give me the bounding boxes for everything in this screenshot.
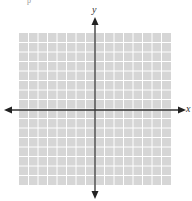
coordinate-plane: [0, 0, 192, 201]
corner-mark: p: [27, 0, 31, 5]
y-axis-bottom-arrow-icon: [92, 191, 99, 199]
y-axis-top-arrow-icon: [92, 17, 99, 25]
x-axis-label: x: [186, 104, 190, 114]
x-axis-right-arrow-icon: [178, 107, 186, 114]
y-axis-label: y: [92, 5, 96, 15]
x-axis-left-arrow-icon: [4, 107, 12, 114]
